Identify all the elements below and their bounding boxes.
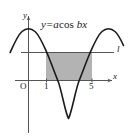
- origin-label: O: [20, 82, 27, 91]
- figure-container: y=acos bx y x l O 1 5: [0, 0, 128, 139]
- y-axis-label: y: [23, 11, 27, 20]
- x-axis-label: x: [113, 72, 117, 81]
- equation-cos: cos: [59, 18, 74, 30]
- curve-equation-label: y=acos bx: [41, 19, 87, 30]
- equation-x: x: [82, 18, 87, 30]
- line-l-label: l: [117, 45, 120, 54]
- x-tick-label-1: 1: [44, 82, 49, 91]
- x-tick-label-5: 5: [89, 82, 94, 91]
